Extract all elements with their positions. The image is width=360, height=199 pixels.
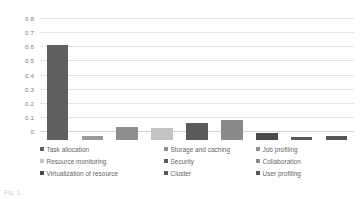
legend-item[interactable]: Cluster: [164, 170, 256, 177]
bar-virtualization-of-resource[interactable]: [256, 133, 278, 140]
bar-slot: [75, 8, 110, 140]
bar-cluster[interactable]: [291, 137, 313, 140]
legend-item[interactable]: Virtualization of resource: [40, 170, 164, 177]
legend-row: Virtualization of resourceClusterUser pr…: [40, 167, 332, 179]
legend-item-label: Virtualization of resource: [47, 170, 119, 177]
chart-legend: Task allocationStorage and cachingJob pr…: [40, 143, 332, 183]
legend-item-label: Cluster: [171, 170, 192, 177]
bar-slot: [284, 8, 319, 140]
legend-item-label: User profiling: [263, 170, 301, 177]
bar-security[interactable]: [186, 123, 208, 140]
legend-item[interactable]: Job profiling: [256, 146, 332, 153]
y-axis-tick-label: 0.6: [25, 43, 34, 50]
y-axis-tick-labels: 0.80.70.60.50.40.30.20.10: [0, 8, 38, 140]
legend-swatch-icon: [164, 159, 168, 163]
legend-swatch-icon: [256, 159, 260, 163]
bar-task-allocation[interactable]: [47, 45, 69, 140]
bar-user-profiling[interactable]: [326, 136, 348, 140]
y-axis-tick-label: 0.5: [25, 57, 34, 64]
bar-slot: [40, 8, 75, 140]
legend-swatch-icon: [40, 159, 44, 163]
legend-item[interactable]: Storage and caching: [164, 146, 256, 153]
y-axis-tick-label: 0.8: [25, 15, 34, 22]
legend-item[interactable]: Security: [164, 158, 256, 165]
bar-slot: [249, 8, 284, 140]
bar-slot: [180, 8, 215, 140]
legend-swatch-icon: [40, 147, 44, 151]
legend-swatch-icon: [256, 171, 260, 175]
y-axis-tick-label: 0.2: [25, 99, 34, 106]
legend-item-label: Task allocation: [47, 146, 90, 153]
bar-resource-monitoring[interactable]: [151, 128, 173, 140]
chart-plot-area: 0.80.70.60.50.40.30.20.10: [0, 8, 360, 140]
bar-storage-and-caching[interactable]: [82, 136, 104, 140]
y-axis-tick-label: 0.3: [25, 85, 34, 92]
bar-slot: [319, 8, 354, 140]
y-axis-tick-label: 0.4: [25, 71, 34, 78]
figure-container: 0.80.70.60.50.40.30.20.10 Task allocatio…: [0, 0, 360, 199]
bar-slot: [110, 8, 145, 140]
legend-swatch-icon: [40, 171, 44, 175]
legend-item[interactable]: Resource monitoring: [40, 158, 164, 165]
bar-collaboration[interactable]: [221, 120, 243, 140]
legend-item-label: Resource monitoring: [47, 158, 107, 165]
legend-row: Resource monitoringSecurityCollaboration: [40, 155, 332, 167]
legend-item-label: Storage and caching: [171, 146, 231, 153]
legend-item-label: Security: [171, 158, 195, 165]
legend-swatch-icon: [164, 171, 168, 175]
bar-slot: [214, 8, 249, 140]
bar-series: [40, 8, 354, 149]
y-axis-tick-label: 0.7: [25, 29, 34, 36]
legend-item-label: Collaboration: [263, 158, 301, 165]
y-axis-tick-label: 0: [30, 128, 34, 135]
legend-item[interactable]: Collaboration: [256, 158, 332, 165]
legend-item[interactable]: User profiling: [256, 170, 332, 177]
legend-row: Task allocationStorage and cachingJob pr…: [40, 143, 332, 155]
legend-swatch-icon: [164, 147, 168, 151]
figure-caption: Fig. 1.: [4, 189, 360, 196]
y-axis-tick-label: 0.1: [25, 113, 34, 120]
legend-item-label: Job profiling: [263, 146, 298, 153]
bar-slot: [145, 8, 180, 140]
legend-item[interactable]: Task allocation: [40, 146, 164, 153]
bar-job-profiling[interactable]: [116, 127, 138, 140]
legend-swatch-icon: [256, 147, 260, 151]
